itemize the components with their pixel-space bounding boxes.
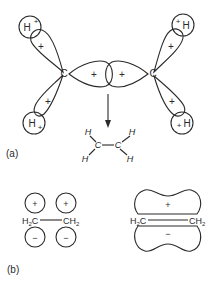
pi-bond-cloud: + H2C CH2 − <box>130 190 206 252</box>
plus-sign: + <box>169 96 175 107</box>
carbon-left-label: C <box>60 68 67 79</box>
svg-text:−: − <box>32 233 37 243</box>
part-b-label: (b) <box>7 264 19 275</box>
part-b: + + − − H2C CH2 + H2C CH2 − (b) <box>7 190 206 275</box>
plus-sign: + <box>177 121 182 130</box>
svg-text:−: − <box>165 229 170 239</box>
plus-sign: + <box>176 17 181 26</box>
ch2-label: CH2 <box>63 216 80 227</box>
ethylene-structure: H H C C H H <box>82 127 136 164</box>
ch2-label: CH2 <box>189 216 206 227</box>
plus-sign: + <box>38 41 44 52</box>
h2c-label: H2C <box>22 216 39 227</box>
p-orbitals-unoverlapped: + + − − H2C CH2 <box>22 193 80 247</box>
plus-sign: + <box>91 69 97 80</box>
svg-text:H: H <box>129 127 136 137</box>
plus-sign: + <box>34 17 39 26</box>
plus-sign: + <box>168 41 174 52</box>
h2c-label: H2C <box>130 216 147 227</box>
hydrogen-label: H <box>28 118 35 129</box>
hydrogen-label: H <box>182 20 189 31</box>
ethylene-orbital-diagram: + H + + H + C + + C + H + + H + <box>0 0 216 281</box>
plus-sign: + <box>119 69 125 80</box>
svg-text:+: + <box>63 199 68 209</box>
svg-text:H: H <box>85 127 92 137</box>
arrow-down-icon <box>105 94 111 128</box>
svg-text:C: C <box>115 140 122 150</box>
plus-sign: + <box>45 96 51 107</box>
svg-text:H: H <box>127 154 134 164</box>
svg-text:H: H <box>82 154 89 164</box>
hydrogen-label: H <box>23 22 30 33</box>
hydrogen-label: H <box>183 118 190 129</box>
part-a: + H + + H + C + + C + H + + H + <box>6 14 194 164</box>
svg-text:−: − <box>63 233 68 243</box>
svg-text:+: + <box>32 199 37 209</box>
part-a-label: (a) <box>6 148 18 159</box>
svg-text:+: + <box>165 200 170 210</box>
plus-sign: + <box>38 123 43 132</box>
